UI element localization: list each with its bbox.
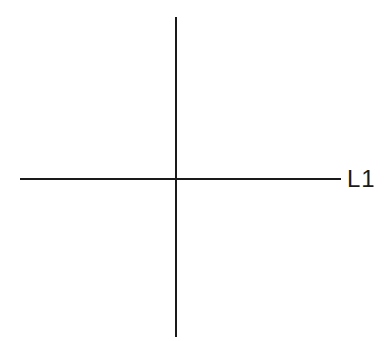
diagram-canvas: L1 bbox=[0, 0, 390, 341]
vertical-line bbox=[175, 17, 177, 337]
line-label-l1: L1 bbox=[347, 165, 376, 193]
horizontal-line-l1 bbox=[20, 178, 341, 180]
